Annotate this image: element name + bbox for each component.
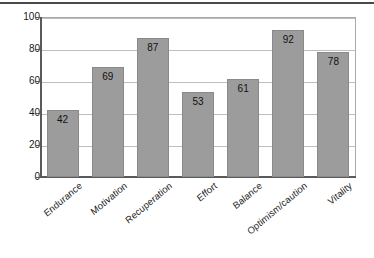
x-axis-category-labels: EnduranceMotivationRecuperationEffortBal…	[40, 180, 356, 258]
x-label-text: Endurance	[40, 180, 84, 218]
bar-vitality[interactable]: 78	[317, 52, 349, 177]
bar-value-label: 92	[273, 34, 303, 45]
x-label-balance: Balance	[230, 180, 264, 211]
bar-series: 42698753619278	[40, 17, 356, 177]
bar-value-label: 87	[138, 42, 168, 53]
bar-optimism-caution[interactable]: 92	[272, 30, 304, 177]
bar-motivation[interactable]: 69	[92, 67, 124, 177]
bar-chart-figure: 020406080100 42698753619278 EnduranceMot…	[0, 0, 374, 258]
x-label-motivation: Motivation	[88, 180, 129, 217]
bar-value-label: 69	[93, 71, 123, 82]
y-tick-100: 100	[0, 12, 40, 22]
y-tick-40: 40	[0, 108, 40, 118]
bar-value-label: 78	[318, 56, 348, 67]
x-label-text: Effort	[194, 180, 220, 203]
bar-endurance[interactable]: 42	[47, 110, 79, 177]
bar-balance[interactable]: 61	[227, 79, 259, 177]
x-label-effort: Effort	[194, 180, 219, 203]
bar-recuperation[interactable]: 87	[137, 38, 169, 177]
x-label-text: Balance	[230, 180, 265, 210]
x-label-text: Motivation	[87, 180, 129, 216]
x-label-vitality: Vitality	[326, 180, 355, 207]
x-label-text: Recuperation	[122, 180, 174, 225]
bar-value-label: 61	[228, 83, 258, 94]
y-tick-0: 0	[0, 172, 40, 182]
y-tick-20: 20	[0, 140, 40, 150]
y-tick-60: 60	[0, 76, 40, 86]
x-label-recuperation: Recuperation	[123, 180, 174, 226]
x-label-text: Vitality	[325, 180, 355, 206]
bar-value-label: 42	[48, 114, 78, 125]
x-label-endurance: Endurance	[41, 180, 84, 219]
bar-effort[interactable]: 53	[182, 92, 214, 177]
y-tick-80: 80	[0, 44, 40, 54]
top-divider-rule	[0, 2, 374, 4]
bar-value-label: 53	[183, 96, 213, 107]
